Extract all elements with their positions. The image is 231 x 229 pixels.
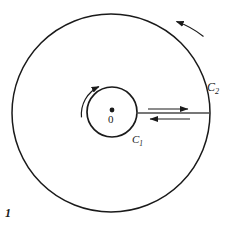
geometry-diagram bbox=[0, 0, 231, 229]
figure-canvas: 0 C1 C2 1 bbox=[0, 0, 231, 229]
inner-circle-label-subscript: 1 bbox=[139, 139, 143, 148]
outer-circle-label-subscript: 2 bbox=[215, 87, 219, 96]
origin-dot bbox=[110, 108, 115, 113]
origin-label: 0 bbox=[108, 114, 114, 125]
figure-caption: 1 bbox=[5, 207, 11, 219]
outer-orientation-arc-arrow bbox=[177, 22, 204, 37]
outer-circle-label: C2 bbox=[207, 81, 219, 97]
inner-orientation-arc-arrow bbox=[81, 87, 98, 118]
inner-circle-label: C1 bbox=[132, 134, 143, 148]
outer-circle-label-base: C bbox=[207, 80, 215, 94]
